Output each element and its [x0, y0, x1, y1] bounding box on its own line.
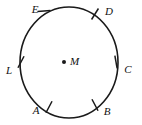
- point-l-label: L: [5, 64, 12, 76]
- point-c-label: C: [124, 63, 132, 75]
- point-b-label: B: [104, 105, 111, 117]
- center-point-label: M: [69, 55, 80, 67]
- point-e-label: E: [31, 3, 39, 15]
- center-dot: [62, 60, 66, 64]
- point-l-tick: [18, 56, 24, 67]
- point-labels-group: EDCBAL: [5, 3, 132, 117]
- point-a-tick: [46, 101, 52, 112]
- circle-outline: [20, 7, 118, 118]
- point-c-tick: [115, 56, 117, 69]
- point-a-label: A: [32, 104, 40, 116]
- point-d-label: D: [104, 5, 113, 17]
- diagram-canvas: M EDCBAL: [0, 0, 142, 125]
- circle-diagram: M EDCBAL: [0, 0, 142, 125]
